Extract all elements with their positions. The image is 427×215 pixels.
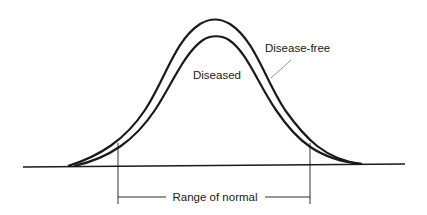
diseased-label: Diseased: [193, 69, 241, 81]
distribution-diagram: Disease-free Diseased Range of normal: [0, 0, 427, 215]
range-of-normal-label: Range of normal: [172, 191, 257, 203]
disease-free-leader-line: [271, 60, 291, 78]
disease-free-label: Disease-free: [265, 42, 330, 54]
